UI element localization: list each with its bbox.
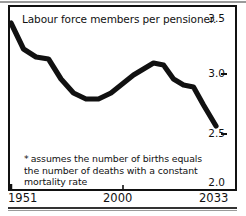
bottom-divider-rule — [8, 207, 237, 209]
x-axis-tick-label-2000: 2000 — [103, 192, 132, 205]
bottom-divider-rule-secondary — [8, 210, 237, 211]
x-axis-labels: 1951 2000 2033 — [0, 192, 246, 208]
chart-footnote: *assumes the number of births equals the… — [24, 153, 220, 188]
y-axis-tick-mark-3-0 — [221, 73, 227, 75]
y-axis-tick-label-3-5: 3.5 — [208, 13, 225, 24]
x-axis-tick-label-1951: 1951 — [8, 192, 37, 205]
footnote-asterisk: * — [24, 153, 31, 164]
y-axis-tick-mark-2-5 — [221, 133, 227, 135]
chart-title: Labour force members per pensioner. — [22, 13, 216, 25]
x-axis-tick-label-2033: 2033 — [199, 192, 228, 205]
chart-figure: Labour force members per pensioner. 3.5 … — [0, 0, 246, 216]
footnote-text: assumes the number of births equals the … — [24, 153, 202, 187]
top-divider-rule — [0, 1, 246, 3]
plot-frame: Labour force members per pensioner. 3.5 … — [8, 5, 237, 191]
